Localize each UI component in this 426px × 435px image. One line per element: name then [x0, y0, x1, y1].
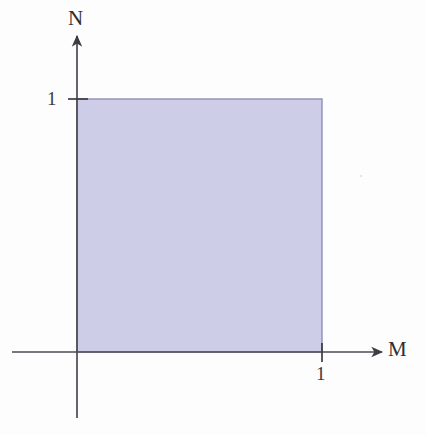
unit-square-region [77, 99, 322, 352]
y-axis-label: N [68, 8, 83, 29]
paper-speck [360, 175, 362, 177]
unit-square-figure: N M 1 1 [0, 0, 426, 435]
y-axis-tick-label-1: 1 [47, 89, 57, 108]
x-axis-label: M [388, 339, 407, 360]
figure-canvas [0, 0, 426, 435]
x-axis-tick-label-1: 1 [316, 364, 326, 383]
